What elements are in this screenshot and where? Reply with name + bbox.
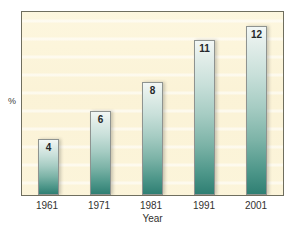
x-tick-label-2001: 2001 <box>230 199 282 212</box>
x-tick-label-1991: 1991 <box>178 199 230 212</box>
x-axis-tick-labels: 1961 1971 1981 1991 2001 <box>21 199 284 213</box>
bar-value-label: 11 <box>195 43 214 54</box>
bar-value-label: 8 <box>143 85 162 96</box>
bar-value-label: 4 <box>39 142 58 153</box>
bar-1971: 6 <box>90 111 111 195</box>
bars-layer: 4 6 8 11 12 <box>22 12 283 195</box>
x-tick-label-1971: 1971 <box>73 199 125 212</box>
x-axis-title: Year <box>21 213 284 224</box>
bar-1991: 11 <box>194 40 215 195</box>
x-tick-label-1961: 1961 <box>21 199 73 212</box>
bar-chart-figure: % 4 6 8 11 12 1961 1971 1981 1991 <box>0 0 293 231</box>
x-tick-label-1981: 1981 <box>125 199 177 212</box>
plot-area: 4 6 8 11 12 <box>21 11 284 196</box>
bar-value-label: 12 <box>247 29 266 40</box>
bar-1961: 4 <box>38 139 59 195</box>
bar-1981: 8 <box>142 82 163 195</box>
bar-2001: 12 <box>246 26 267 195</box>
y-axis-label: % <box>4 96 20 106</box>
bar-value-label: 6 <box>91 114 110 125</box>
